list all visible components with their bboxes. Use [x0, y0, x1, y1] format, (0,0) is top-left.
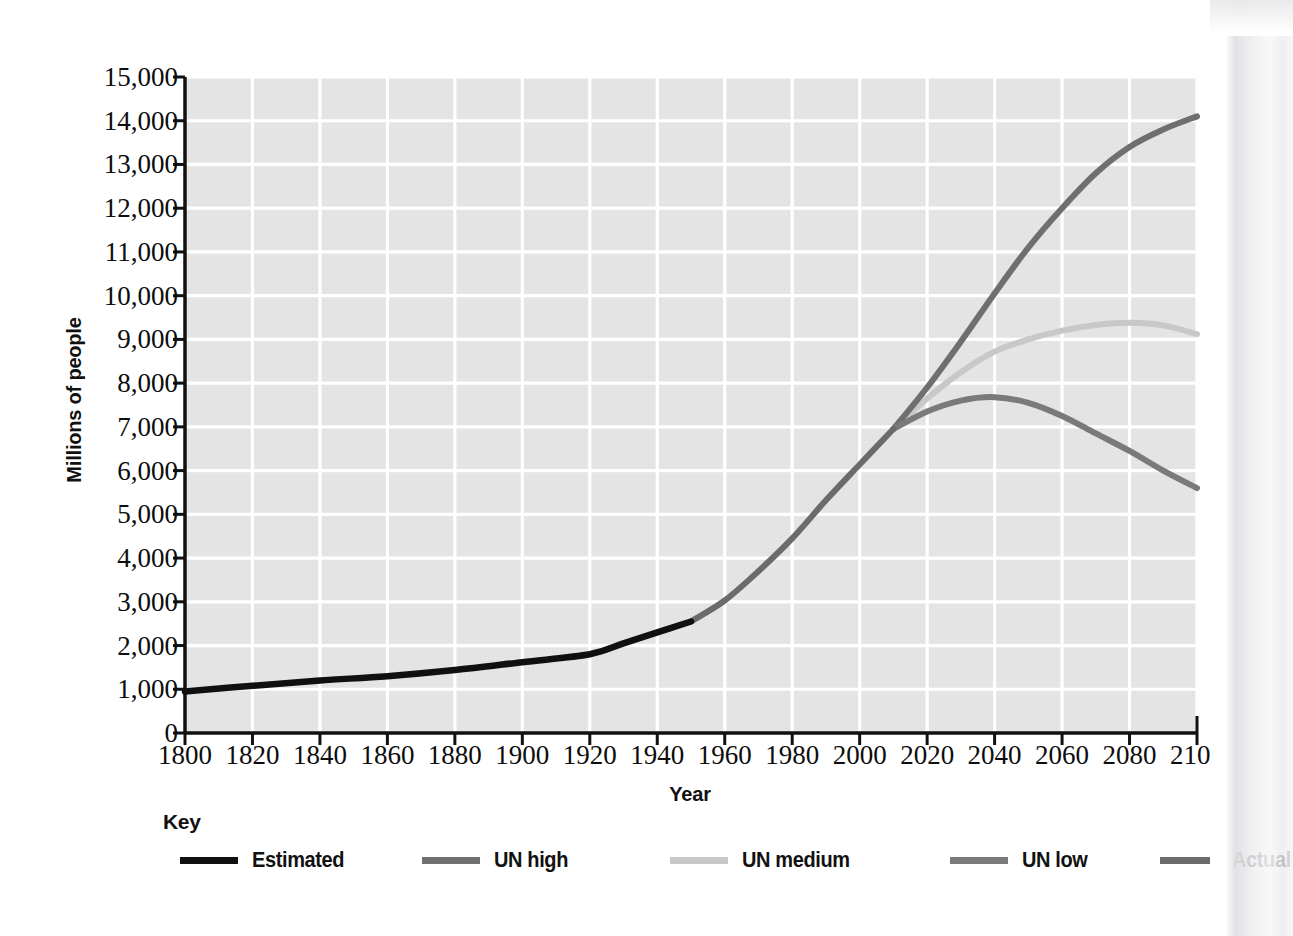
legend-swatch-icon: [180, 857, 238, 864]
legend-swatch-icon: [422, 857, 480, 864]
plot-area-background: [185, 77, 1197, 733]
legend-item-actual[interactable]: Actual: [1160, 845, 1293, 875]
legend-item-un-high[interactable]: UN high: [422, 845, 574, 875]
y-tick-label: 13,000: [104, 151, 178, 178]
x-tick-label: 2100: [1137, 742, 1257, 769]
y-tick-label: 15,000: [104, 64, 178, 91]
y-tick-label: 2,000: [117, 633, 178, 660]
legend-item-estimated[interactable]: Estimated: [180, 845, 351, 875]
legend-item-un-low[interactable]: UN low: [950, 845, 1092, 875]
y-axis-tick-labels: 01,0002,0003,0004,0005,0006,0007,0008,00…: [0, 0, 178, 936]
y-tick-label: 4,000: [117, 545, 178, 572]
y-tick-label: 10,000: [104, 283, 178, 310]
legend-swatch-icon: [670, 857, 728, 864]
legend-item-un-medium[interactable]: UN medium: [670, 845, 858, 875]
y-tick-label: 1,000: [117, 676, 178, 703]
y-tick-label: 7,000: [117, 414, 178, 441]
legend-swatch-icon: [950, 857, 1008, 864]
y-axis-title: Millions of people: [0, 384, 174, 416]
y-tick-label: 6,000: [117, 458, 178, 485]
legend-title: Key: [163, 810, 201, 834]
population-projection-chart-figure: 01,0002,0003,0004,0005,0006,0007,0008,00…: [0, 0, 1293, 936]
y-tick-label: 9,000: [117, 326, 178, 353]
y-tick-label: 11,000: [105, 239, 178, 266]
y-tick-label: 14,000: [104, 108, 178, 135]
y-tick-label: 12,000: [104, 195, 178, 222]
y-tick-label: 3,000: [117, 589, 178, 616]
legend-item-label: UN medium: [742, 848, 850, 873]
x-axis-title: Year: [600, 783, 780, 806]
legend-item-label: UN high: [494, 848, 568, 873]
legend-swatch-icon: [1160, 857, 1218, 864]
y-tick-label: 5,000: [117, 501, 178, 528]
chart-legend: EstimatedUN highUN mediumUN lowActual: [160, 845, 1220, 885]
legend-item-label: Actual: [1232, 848, 1291, 873]
legend-item-label: Estimated: [252, 848, 344, 873]
legend-item-label: UN low: [1022, 848, 1088, 873]
